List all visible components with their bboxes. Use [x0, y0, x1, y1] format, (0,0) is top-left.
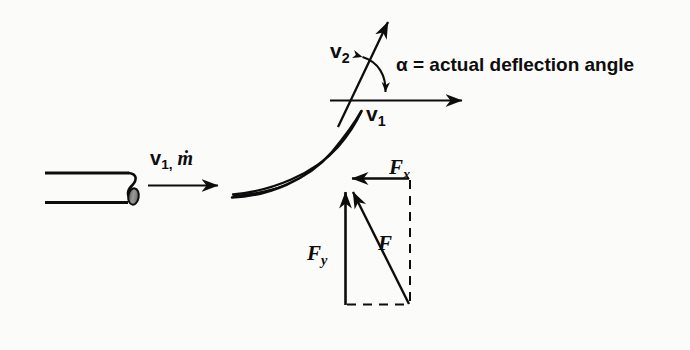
label-fy: Fy [307, 243, 327, 267]
curved-vane [232, 111, 362, 198]
alpha-angle-arc [363, 57, 386, 92]
label-fx: Fx [389, 157, 410, 181]
label-f-resultant: F [378, 233, 392, 254]
label-deflection-angle: α = actual deflection angle [396, 55, 634, 74]
label-v2: v2 [330, 40, 350, 65]
label-v1-axis: v1 [366, 103, 386, 128]
nozzle-pipe [45, 173, 140, 205]
label-inflow-velocity-massflow: v1,ṁ [150, 148, 193, 172]
figure-canvas: v2 v1 α = actual deflection angle v1,ṁ F… [0, 0, 690, 350]
mass-flow-symbol: ṁ [177, 147, 193, 169]
